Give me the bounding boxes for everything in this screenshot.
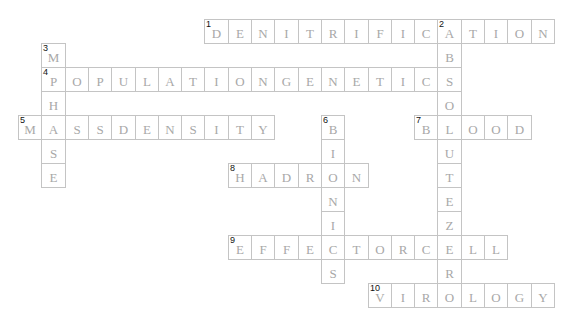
crossword-cell[interactable]: 9E	[228, 235, 252, 260]
crossword-cell[interactable]: F	[274, 235, 299, 260]
crossword-cell[interactable]: I	[321, 139, 345, 164]
crossword-cell[interactable]: C	[414, 67, 438, 92]
crossword-cell[interactable]: B	[437, 43, 462, 68]
crossword-cell[interactable]: 2A	[437, 19, 462, 44]
crossword-cell[interactable]: S	[181, 115, 205, 140]
crossword-cell[interactable]: O	[437, 283, 462, 308]
crossword-cell[interactable]: O	[507, 19, 532, 44]
crossword-cell[interactable]: E	[437, 235, 462, 260]
crossword-cell[interactable]: A	[158, 67, 182, 92]
crossword-cell[interactable]: H	[41, 91, 66, 116]
crossword-cell[interactable]: S	[88, 115, 112, 140]
crossword-cell[interactable]: O	[368, 235, 392, 260]
crossword-cell[interactable]: S	[41, 139, 66, 164]
crossword-cell[interactable]: G	[274, 67, 299, 92]
crossword-cell[interactable]: E	[298, 235, 322, 260]
crossword-cell[interactable]: O	[484, 115, 508, 140]
crossword-cell[interactable]: N	[158, 115, 182, 140]
crossword-cell[interactable]: E	[41, 163, 66, 188]
cell-letter: U	[438, 147, 461, 161]
crossword-cell[interactable]: R	[321, 19, 345, 44]
crossword-cell[interactable]: E	[135, 115, 159, 140]
crossword-cell[interactable]: L	[461, 283, 485, 308]
crossword-cell[interactable]: N	[321, 67, 345, 92]
crossword-cell[interactable]: P	[88, 67, 112, 92]
crossword-cell[interactable]: Z	[437, 211, 462, 236]
cell-letter: G	[275, 75, 298, 89]
crossword-cell[interactable]: N	[344, 163, 369, 188]
crossword-cell[interactable]: 1D	[204, 19, 229, 44]
crossword-cell[interactable]: T	[368, 67, 392, 92]
crossword-cell[interactable]: I	[344, 19, 369, 44]
crossword-cell[interactable]: R	[414, 283, 438, 308]
cell-letter: I	[345, 27, 368, 41]
crossword-cell[interactable]: I	[204, 67, 229, 92]
cell-letter: S	[182, 123, 204, 137]
crossword-cell[interactable]: I	[391, 19, 415, 44]
crossword-cell[interactable]: I	[391, 67, 415, 92]
crossword-cell[interactable]: C	[414, 235, 438, 260]
crossword-cell[interactable]: A	[41, 115, 66, 140]
crossword-cell[interactable]: G	[507, 283, 532, 308]
cell-letter: D	[508, 123, 531, 137]
crossword-cell[interactable]: 5M	[18, 115, 42, 140]
crossword-cell[interactable]: O	[437, 91, 462, 116]
crossword-cell[interactable]: T	[461, 19, 485, 44]
crossword-cell[interactable]: N	[531, 19, 555, 44]
crossword-cell[interactable]: I	[321, 211, 345, 236]
crossword-cell[interactable]: C	[414, 19, 438, 44]
crossword-cell[interactable]: T	[298, 19, 322, 44]
crossword-cell[interactable]: I	[204, 115, 229, 140]
crossword-cell[interactable]: N	[251, 67, 275, 92]
crossword-cell[interactable]: 7B	[414, 115, 438, 140]
crossword-cell[interactable]: O	[321, 163, 345, 188]
cell-letter: U	[112, 75, 135, 89]
crossword-cell[interactable]: D	[507, 115, 532, 140]
crossword-cell[interactable]: I	[391, 283, 415, 308]
crossword-cell[interactable]: R	[391, 235, 415, 260]
crossword-cell[interactable]: 3M	[41, 43, 66, 68]
crossword-cell[interactable]: U	[437, 139, 462, 164]
crossword-cell[interactable]: I	[484, 19, 508, 44]
crossword-cell[interactable]: 8H	[228, 163, 252, 188]
crossword-cell[interactable]: C	[321, 235, 345, 260]
crossword-cell[interactable]: E	[298, 67, 322, 92]
crossword-cell[interactable]: E	[344, 67, 369, 92]
crossword-cell[interactable]: A	[251, 163, 275, 188]
crossword-cell[interactable]: L	[437, 115, 462, 140]
cell-letter: E	[299, 243, 321, 257]
crossword-cell[interactable]: S	[65, 115, 89, 140]
crossword-cell[interactable]: Y	[531, 283, 555, 308]
crossword-cell[interactable]: N	[321, 187, 345, 212]
crossword-cell[interactable]: 4P	[41, 67, 66, 92]
cell-letter: I	[322, 219, 344, 233]
crossword-cell[interactable]: O	[461, 115, 485, 140]
crossword-cell[interactable]: S	[437, 67, 462, 92]
crossword-cell[interactable]: L	[135, 67, 159, 92]
crossword-cell[interactable]: T	[437, 163, 462, 188]
crossword-cell[interactable]: E	[437, 187, 462, 212]
crossword-cell[interactable]: R	[298, 163, 322, 188]
crossword-cell[interactable]: L	[461, 235, 485, 260]
crossword-cell[interactable]: F	[251, 235, 275, 260]
crossword-cell[interactable]: Y	[251, 115, 275, 140]
crossword-cell[interactable]: U	[111, 67, 136, 92]
crossword-cell[interactable]: S	[321, 259, 345, 284]
crossword-cell[interactable]: N	[251, 19, 275, 44]
crossword-cell[interactable]: 10V	[368, 283, 392, 308]
crossword-cell[interactable]: T	[344, 235, 369, 260]
crossword-cell[interactable]: E	[228, 19, 252, 44]
crossword-cell[interactable]: R	[437, 259, 462, 284]
crossword-cell[interactable]: I	[274, 19, 299, 44]
crossword-cell[interactable]: O	[228, 67, 252, 92]
crossword-cell[interactable]: D	[274, 163, 299, 188]
crossword-cell[interactable]: O	[65, 67, 89, 92]
crossword-cell[interactable]: 6B	[321, 115, 345, 140]
crossword-cell[interactable]: T	[181, 67, 205, 92]
crossword-cell[interactable]: O	[484, 283, 508, 308]
crossword-cell[interactable]: T	[228, 115, 252, 140]
crossword-cell[interactable]: F	[368, 19, 392, 44]
crossword-cell[interactable]: D	[111, 115, 136, 140]
crossword-cell[interactable]: L	[484, 235, 508, 260]
cell-letter: I	[485, 27, 507, 41]
